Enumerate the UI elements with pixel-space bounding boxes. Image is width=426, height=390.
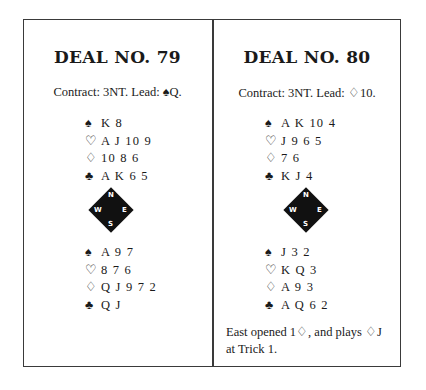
compass-south: S: [108, 220, 113, 228]
heart-cards: J 9 6 5: [281, 134, 322, 148]
north-diamonds: ♢7 6: [265, 150, 336, 168]
north-clubs: ♣K J 4: [265, 168, 336, 186]
diamond-icon: ♢: [265, 279, 281, 297]
diamond-cards: 7 6: [281, 151, 300, 165]
compass-north: N: [303, 191, 309, 199]
diamond-icon: ♢: [85, 150, 101, 168]
north-spades: ♠A K 10 4: [265, 115, 336, 133]
heart-cards: A J 10 9: [101, 134, 152, 148]
north-hand: ♠A K 10 4 ♡J 9 6 5 ♢7 6 ♣K J 4: [265, 115, 336, 185]
heart-icon: ♡: [265, 262, 281, 280]
compass-east: E: [122, 206, 127, 214]
compass-icon: N W E S: [283, 187, 329, 233]
club-cards: Q J: [101, 298, 122, 312]
diamond-cards: Q J 9 7 2: [101, 280, 157, 294]
contract-line: Contract: 3NT. Lead: ♢10.: [213, 85, 401, 101]
south-clubs: ♣A Q 6 2: [265, 297, 329, 315]
compass-west: W: [94, 206, 102, 214]
compass-west: W: [289, 206, 297, 214]
club-icon: ♣: [265, 168, 281, 186]
south-clubs: ♣Q J: [85, 297, 157, 315]
heart-cards: 8 7 6: [101, 263, 132, 277]
club-icon: ♣: [265, 297, 281, 315]
note-line-1: East opened 1♢, and plays ♢J: [226, 324, 382, 341]
compass-icon: N W E S: [88, 187, 134, 233]
south-spades: ♠J 3 2: [265, 244, 329, 262]
heart-icon: ♡: [265, 133, 281, 151]
spade-icon: ♠: [85, 244, 101, 262]
south-hand: ♠A 9 7 ♡8 7 6 ♢Q J 9 7 2 ♣Q J: [85, 244, 157, 314]
heart-icon: ♡: [85, 133, 101, 151]
club-cards: A Q 6 2: [281, 298, 329, 312]
south-hearts: ♡K Q 3: [265, 262, 329, 280]
note-line-2: at Trick 1.: [226, 341, 382, 358]
south-diamonds: ♢Q J 9 7 2: [85, 279, 157, 297]
deal-80-panel: DEAL NO. 80 Contract: 3NT. Lead: ♢10. ♠A…: [213, 19, 401, 367]
contract-line: Contract: 3NT. Lead: ♠Q.: [23, 85, 212, 100]
diamond-icon: ♢: [265, 150, 281, 168]
deal-title: DEAL NO. 80: [213, 47, 401, 67]
south-hand: ♠J 3 2 ♡K Q 3 ♢A 9 3 ♣A Q 6 2: [265, 244, 329, 314]
south-spades: ♠A 9 7: [85, 244, 157, 262]
north-hearts: ♡J 9 6 5: [265, 133, 336, 151]
club-cards: A K 6 5: [101, 169, 149, 183]
deal-79-panel: DEAL NO. 79 Contract: 3NT. Lead: ♠Q. ♠K …: [23, 19, 212, 367]
south-diamonds: ♢A 9 3: [265, 279, 329, 297]
compass-north: N: [108, 191, 114, 199]
north-hand: ♠K 8 ♡A J 10 9 ♢10 8 6 ♣A K 6 5: [85, 115, 152, 185]
deal-title: DEAL NO. 79: [23, 47, 212, 67]
compass-east: E: [317, 206, 322, 214]
deal-note: East opened 1♢, and plays ♢J at Trick 1.: [226, 324, 382, 358]
diamond-cards: A 9 3: [281, 280, 314, 294]
south-hearts: ♡8 7 6: [85, 262, 157, 280]
club-icon: ♣: [85, 168, 101, 186]
spade-icon: ♠: [265, 244, 281, 262]
spade-cards: J 3 2: [281, 245, 311, 259]
heart-icon: ♡: [85, 262, 101, 280]
spade-cards: A 9 7: [101, 245, 134, 259]
spade-icon: ♠: [85, 115, 101, 133]
north-spades: ♠K 8: [85, 115, 152, 133]
club-cards: K J 4: [281, 169, 313, 183]
compass-south: S: [303, 220, 308, 228]
spade-cards: K 8: [101, 116, 123, 130]
north-diamonds: ♢10 8 6: [85, 150, 152, 168]
diamond-cards: 10 8 6: [101, 151, 139, 165]
diamond-icon: ♢: [85, 279, 101, 297]
north-hearts: ♡A J 10 9: [85, 133, 152, 151]
heart-cards: K Q 3: [281, 263, 318, 277]
club-icon: ♣: [85, 297, 101, 315]
spade-cards: A K 10 4: [281, 116, 336, 130]
spade-icon: ♠: [265, 115, 281, 133]
north-clubs: ♣A K 6 5: [85, 168, 152, 186]
